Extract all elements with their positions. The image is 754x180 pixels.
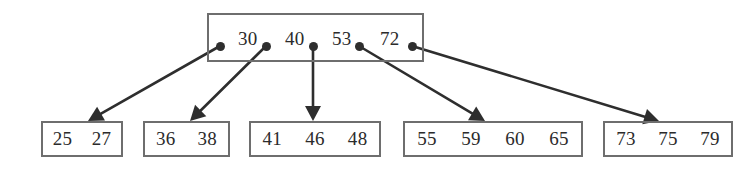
leaf-key: 27 <box>92 129 112 149</box>
edge-shaft <box>412 46 645 117</box>
leaf-key: 59 <box>461 129 481 149</box>
root-pointer-dot-2[interactable] <box>262 42 271 51</box>
root-pointer-dot-5[interactable] <box>408 42 417 51</box>
leaf-key: 65 <box>549 129 569 149</box>
leaf-key: 36 <box>156 129 176 149</box>
root-key: 40 <box>285 29 305 48</box>
leaf-key: 75 <box>658 129 678 149</box>
leaf-key: 48 <box>348 129 368 149</box>
edge-arrowhead <box>305 106 321 121</box>
edge-shaft <box>101 46 220 114</box>
leaf-key: 46 <box>305 129 325 149</box>
leaf-key: 25 <box>53 129 73 149</box>
leaf-key: 38 <box>197 129 217 149</box>
edge-root-to-leaf-5 <box>412 46 659 124</box>
leaf-key: 73 <box>616 129 636 149</box>
leaf-node-1[interactable]: 2527 <box>41 121 123 157</box>
btree-diagram: 304053722527363841464855596065737579 <box>0 0 754 180</box>
leaf-key: 79 <box>700 129 720 149</box>
leaf-node-4[interactable]: 55596065 <box>403 121 583 157</box>
leaf-key: 55 <box>417 129 437 149</box>
leaf-node-2[interactable]: 3638 <box>143 121 230 157</box>
root-key: 72 <box>380 29 400 48</box>
root-pointer-dot-4[interactable] <box>355 42 364 51</box>
leaf-key: 41 <box>263 129 283 149</box>
leaf-node-5[interactable]: 737579 <box>603 121 733 157</box>
root-pointer-dot-1[interactable] <box>216 42 225 51</box>
root-pointer-dot-3[interactable] <box>309 42 318 51</box>
root-key: 30 <box>238 29 258 48</box>
leaf-key: 60 <box>505 129 525 149</box>
root-key: 53 <box>332 29 352 48</box>
leaf-node-3[interactable]: 414648 <box>249 121 381 157</box>
root-node[interactable]: 30405372 <box>207 13 424 62</box>
